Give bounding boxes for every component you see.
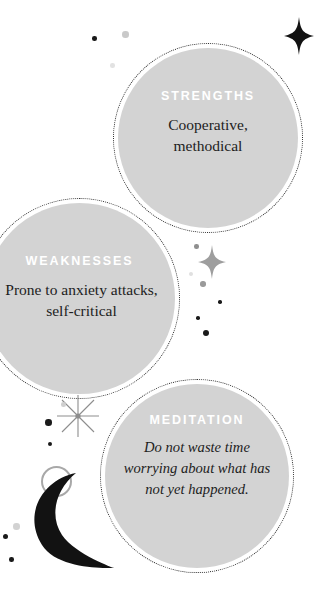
- meditation-body-line-3: not yet happened.: [124, 479, 270, 500]
- dot: [92, 36, 97, 41]
- eight-point-starburst-icon: [57, 395, 99, 437]
- dot: [9, 557, 14, 562]
- four-point-star-icon: [198, 245, 226, 279]
- dot: [218, 300, 222, 304]
- meditation-body-line-2: worrying about what has: [124, 458, 270, 479]
- strengths-body: Cooperative, methodical: [168, 114, 248, 157]
- dot: [13, 523, 20, 530]
- weaknesses-bubble[interactable]: WEAKNESSES Prone to anxiety attacks, sel…: [0, 203, 175, 394]
- meditation-body-line-1: Do not waste time: [124, 437, 270, 458]
- strengths-heading: STRENGTHS: [161, 90, 255, 103]
- dot: [3, 534, 8, 539]
- four-point-star-icon: [284, 17, 314, 55]
- dot: [189, 272, 193, 276]
- strengths-bubble[interactable]: STRENGTHS Cooperative, methodical: [118, 48, 298, 228]
- weaknesses-body-line-2: self-critical: [5, 300, 157, 321]
- meditation-heading: MEDITATION: [150, 414, 245, 427]
- dot: [196, 316, 200, 320]
- weaknesses-body: Prone to anxiety attacks, self-critical: [5, 279, 157, 322]
- meditation-bubble[interactable]: MEDITATION Do not waste time worrying ab…: [105, 384, 289, 568]
- dot: [122, 31, 129, 38]
- dot: [45, 419, 52, 426]
- dot: [48, 442, 52, 446]
- poster-canvas: STRENGTHS Cooperative, methodical WEAKNE…: [0, 0, 318, 590]
- dot: [203, 330, 209, 336]
- strengths-body-line-2: methodical: [168, 135, 248, 156]
- dot: [200, 281, 206, 287]
- crescent-moon-icon: [28, 473, 114, 568]
- meditation-body: Do not waste time worrying about what ha…: [124, 437, 270, 500]
- weaknesses-heading: WEAKNESSES: [26, 255, 134, 268]
- strengths-body-line-1: Cooperative,: [168, 114, 248, 135]
- weaknesses-body-line-1: Prone to anxiety attacks,: [5, 279, 157, 300]
- dot: [110, 63, 115, 68]
